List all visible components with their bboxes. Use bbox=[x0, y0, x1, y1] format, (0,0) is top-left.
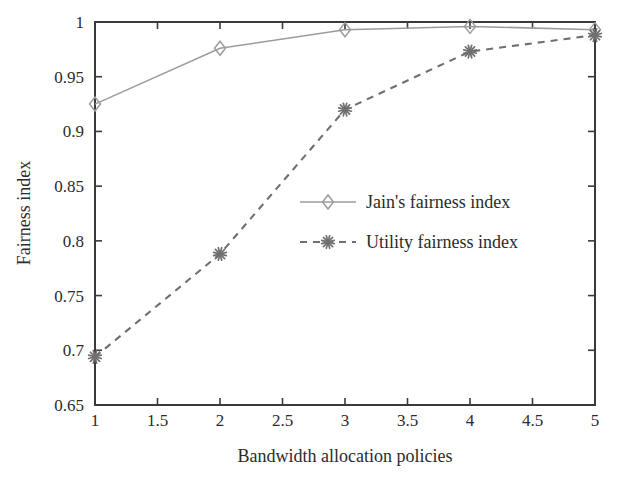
x-axis-tick-labels: 11.522.533.544.55 bbox=[91, 411, 600, 430]
y-tick-label: 1 bbox=[76, 13, 85, 32]
series-jain bbox=[90, 19, 601, 111]
x-tick-label: 1.5 bbox=[147, 411, 168, 430]
data-series-group bbox=[89, 19, 602, 363]
plot-area-frame bbox=[95, 22, 595, 405]
asterisk-marker bbox=[214, 248, 227, 261]
x-tick-label: 4.5 bbox=[522, 411, 543, 430]
x-tick-label: 4 bbox=[466, 411, 475, 430]
y-axis-title: Fairness index bbox=[14, 161, 34, 265]
series-utility bbox=[89, 29, 602, 363]
asterisk-marker bbox=[339, 103, 352, 116]
legend-label: Utility fairness index bbox=[366, 232, 518, 252]
chart-figure: 11.522.533.544.55 0.650.70.750.80.850.90… bbox=[0, 0, 629, 477]
x-tick-label: 2 bbox=[216, 411, 225, 430]
legend-label: Jain's fairness index bbox=[366, 192, 510, 212]
y-tick-label: 0.95 bbox=[54, 68, 84, 87]
x-tick-label: 5 bbox=[591, 411, 600, 430]
x-axis-ticks bbox=[95, 22, 595, 405]
chart-legend: Jain's fairness indexUtility fairness in… bbox=[300, 192, 518, 252]
y-tick-label: 0.75 bbox=[54, 287, 84, 306]
x-tick-label: 1 bbox=[91, 411, 100, 430]
y-tick-label: 0.9 bbox=[63, 122, 84, 141]
legend-entry: Utility fairness index bbox=[300, 232, 518, 252]
legend-entry: Jain's fairness index bbox=[300, 192, 510, 212]
x-tick-label: 3 bbox=[341, 411, 350, 430]
series-line bbox=[95, 26, 595, 104]
y-tick-label: 0.8 bbox=[63, 232, 84, 251]
y-tick-label: 0.7 bbox=[63, 341, 85, 360]
x-axis-title: Bandwidth allocation policies bbox=[238, 446, 453, 466]
x-tick-label: 2.5 bbox=[272, 411, 293, 430]
x-tick-label: 3.5 bbox=[397, 411, 418, 430]
series-line bbox=[95, 35, 595, 357]
y-tick-label: 0.65 bbox=[54, 396, 84, 415]
line-chart: 11.522.533.544.55 0.650.70.750.80.850.90… bbox=[0, 0, 629, 477]
y-tick-label: 0.85 bbox=[54, 177, 84, 196]
y-axis-tick-labels: 0.650.70.750.80.850.90.951 bbox=[54, 13, 84, 415]
y-axis-ticks bbox=[95, 22, 595, 405]
